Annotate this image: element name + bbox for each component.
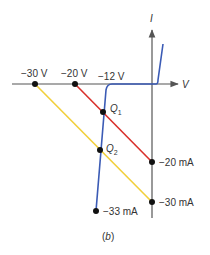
point-minus-20ma xyxy=(149,159,155,165)
point-q2 xyxy=(97,147,103,153)
label-minus-12v: −12 V xyxy=(98,71,125,82)
label-minus-33ma: −33 mA xyxy=(103,206,138,217)
x-axis-label: V xyxy=(182,79,190,90)
zener-diode-load-line-diagram: I V −30 V −20 V −12 V Q1 Q2 −20 mA −30 m… xyxy=(0,0,210,255)
label-minus-30ma: −30 mA xyxy=(159,197,194,208)
label-q2: Q2 xyxy=(106,143,118,156)
diode-curve xyxy=(96,44,163,211)
point-q1 xyxy=(100,109,106,115)
point-minus-20v xyxy=(72,81,78,87)
label-q1: Q1 xyxy=(110,103,122,116)
label-minus-20v: −20 V xyxy=(61,68,88,79)
point-minus-30ma xyxy=(149,199,155,205)
label-minus-30v: −30 V xyxy=(21,68,48,79)
point-minus-33ma xyxy=(93,208,99,214)
label-minus-20ma: −20 mA xyxy=(159,157,194,168)
figure-caption: (b) xyxy=(102,231,114,242)
y-axis-label: I xyxy=(150,13,153,24)
point-minus-30v xyxy=(32,81,38,87)
